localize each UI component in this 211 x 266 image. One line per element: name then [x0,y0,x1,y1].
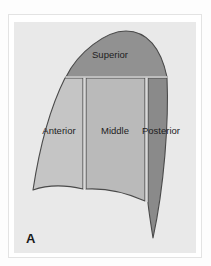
figure-root: Superior Anterior Middle Posterior A [0,0,211,266]
segment-posterior[interactable] [148,78,167,238]
segment-label-superior: Superior [92,49,128,60]
segment-label-middle: Middle [101,125,129,136]
segment-label-anterior: Anterior [42,125,75,136]
segment-label-posterior: Posterior [142,125,180,136]
lung-segment-diagram: Superior Anterior Middle Posterior [14,22,196,253]
segment-middle[interactable] [86,78,145,201]
figure-panel: Superior Anterior Middle Posterior A [14,22,196,253]
panel-letter: A [26,232,36,245]
